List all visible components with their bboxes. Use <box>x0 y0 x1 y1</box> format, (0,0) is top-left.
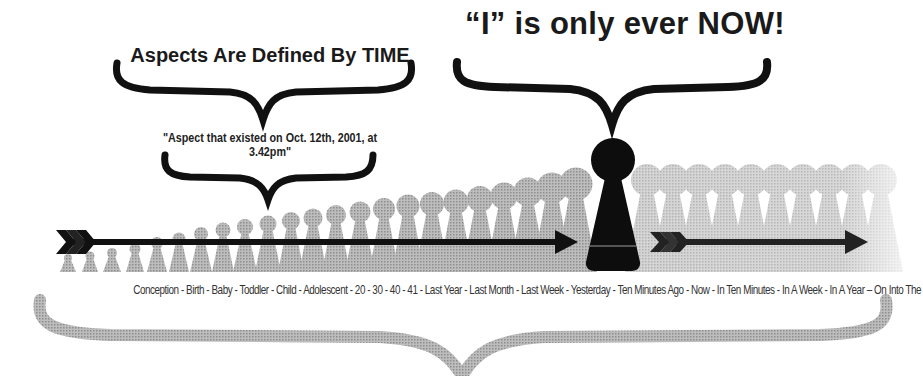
brace-aspect-instance <box>165 155 373 200</box>
aspect-quote: "Aspect that existed on Oct. 12th, 2001,… <box>141 131 399 159</box>
now-title: “I” is only ever NOW! <box>455 6 795 42</box>
brace-whole-life <box>39 300 886 376</box>
aspects-title: Aspects Are Defined By TIME <box>120 44 420 67</box>
timeline-label: Conception - Birth - Baby - Toddler - Ch… <box>133 282 787 297</box>
past-figures <box>60 168 597 273</box>
brace-aspects <box>116 63 411 120</box>
future-fade <box>600 160 923 275</box>
brace-now <box>457 62 768 125</box>
